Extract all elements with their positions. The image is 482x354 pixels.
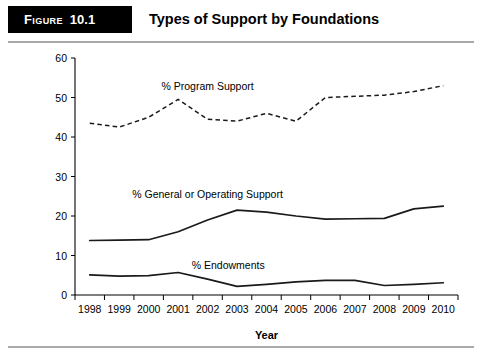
y-tick-label: 30: [55, 171, 67, 183]
figure-tag-label: Figure: [8, 12, 63, 27]
x-tick-label: 2006: [314, 303, 338, 315]
x-tick-label: 2004: [255, 303, 279, 315]
figure-header: Figure 10.1 Types of Support by Foundati…: [0, 0, 482, 40]
series-line-1: [90, 206, 444, 240]
series-label-0: % Program Support: [161, 80, 253, 92]
figure-bottom-divider: [8, 346, 474, 348]
y-tick-label: 60: [55, 52, 67, 64]
y-tick-label: 40: [55, 131, 67, 143]
x-tick-label: 2002: [196, 303, 220, 315]
x-axis: 1998199920002001200220032004200520062007…: [75, 295, 458, 315]
x-tick-label: 2000: [137, 303, 161, 315]
x-tick-label: 2010: [432, 303, 456, 315]
series-labels: % Program Support% General or Operating …: [132, 80, 283, 271]
y-tick-label: 20: [55, 210, 67, 222]
x-tick-label: 2008: [373, 303, 397, 315]
x-axis-title: Year: [255, 329, 279, 341]
line-chart: 0102030405060 19981999200020012002200320…: [0, 44, 482, 344]
series-line-0: [90, 86, 444, 127]
y-tick-label: 10: [55, 250, 67, 262]
series-label-1: % General or Operating Support: [132, 188, 283, 200]
x-tick-label: 1998: [78, 303, 102, 315]
x-tick-label: 2005: [284, 303, 308, 315]
x-tick-label: 1999: [108, 303, 132, 315]
y-tick-label: 0: [61, 289, 67, 301]
series-line-2: [90, 272, 444, 286]
series-lines: [90, 86, 444, 287]
figure-tag-number: 10.1: [63, 12, 95, 27]
y-axis: 0102030405060: [55, 52, 75, 301]
x-tick-label: 2003: [225, 303, 249, 315]
chart-canvas: 0102030405060 19981999200020012002200320…: [0, 44, 482, 344]
header-divider: [8, 41, 474, 43]
x-tick-label: 2001: [166, 303, 190, 315]
x-tick-label: 2007: [343, 303, 367, 315]
figure-number-badge: Figure 10.1: [8, 6, 132, 33]
series-label-2: % Endowments: [192, 259, 265, 271]
y-tick-label: 50: [55, 92, 67, 104]
x-tick-label: 2009: [402, 303, 426, 315]
figure-title: Types of Support by Foundations: [149, 11, 379, 27]
